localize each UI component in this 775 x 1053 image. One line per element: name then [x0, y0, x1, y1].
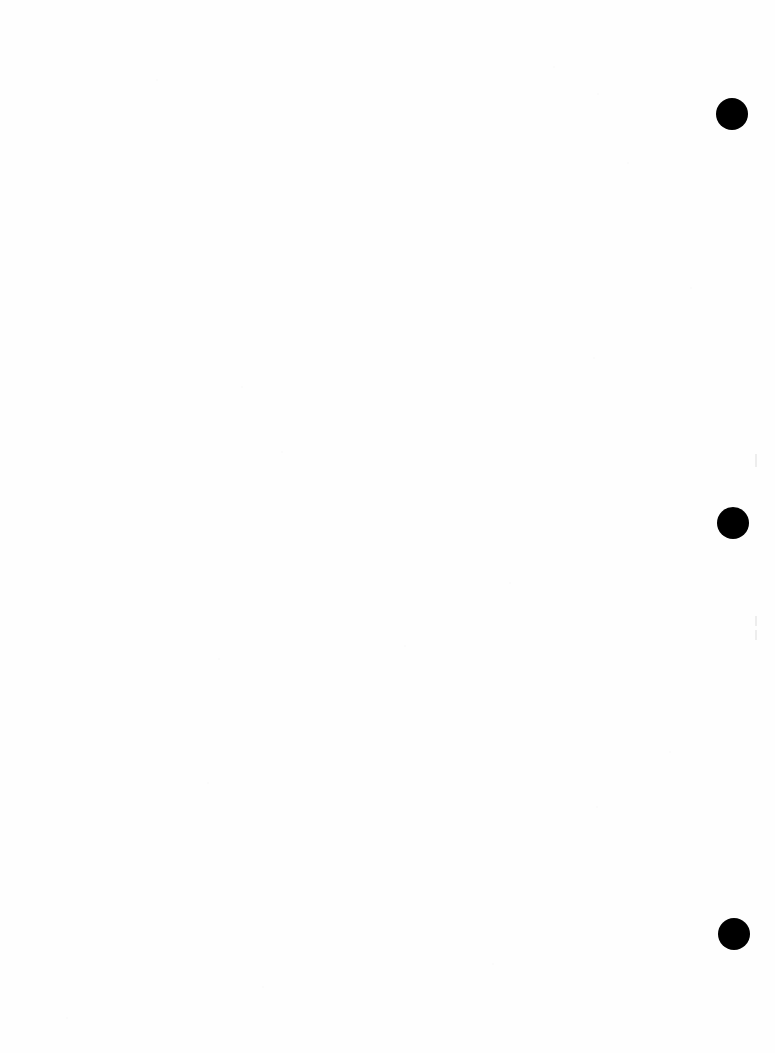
edge-artifact-2 [755, 616, 757, 626]
scanner-speckle [593, 357, 595, 359]
scanner-speckle [262, 986, 264, 988]
scanner-speckle [281, 451, 283, 453]
edge-artifact-1 [755, 454, 757, 467]
scanner-speckle [404, 645, 406, 647]
scanner-speckle [690, 287, 692, 289]
scanner-speckle [627, 162, 629, 164]
scanner-speckle [597, 93, 599, 95]
scanner-speckle [669, 751, 671, 753]
scanner-speckle [218, 658, 220, 660]
registration-mark-2 [717, 507, 749, 539]
edge-artifact-3 [755, 630, 757, 640]
scanned-page [0, 0, 775, 1053]
paper-surface [0, 0, 775, 1053]
scanner-speckle [207, 782, 209, 784]
scanner-speckle [509, 582, 511, 584]
scanner-speckle [492, 963, 494, 965]
scanner-speckle [596, 806, 598, 808]
scanner-speckle [156, 79, 158, 81]
registration-mark-1 [716, 98, 748, 130]
scanner-speckle [553, 66, 555, 68]
scanner-speckle [66, 1017, 68, 1019]
scanner-speckle [241, 386, 243, 388]
registration-mark-3 [718, 918, 750, 950]
